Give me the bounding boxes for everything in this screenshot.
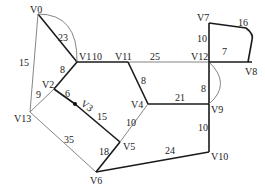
edge-weight: 8: [141, 75, 146, 86]
edge-V7-V8: [209, 23, 252, 62]
edge-weight: 10: [197, 33, 207, 44]
vertex-label-v11: V11: [115, 51, 132, 62]
edge-weight: 16: [238, 17, 248, 28]
edge-V3-V5: [75, 104, 120, 142]
edge-weight: 10: [92, 51, 102, 62]
edge-V1-V2: [54, 62, 77, 89]
edge-weight: 24: [165, 145, 175, 156]
edge-V13-V6: [30, 112, 96, 172]
edge-weight: 23: [58, 32, 68, 43]
edge-weight: 18: [99, 146, 109, 157]
edge-weight: 7: [222, 46, 227, 57]
edge-V6-V10: [96, 152, 209, 172]
vertex-label-v2: V2: [42, 79, 54, 90]
edge-weight: 10: [198, 122, 208, 133]
edge-V2-V13: [30, 89, 54, 112]
vertex-label-v5: V5: [123, 141, 135, 152]
vertex-label-v9: V9: [211, 104, 223, 115]
graph-diagram: 23158961535181025810218107161024 V0V1V2V…: [0, 0, 265, 194]
edge-weight: 6: [65, 88, 70, 99]
edge-weight: 15: [97, 111, 107, 122]
vertices-layer: V0V1V2V3V13V4V5V6V11V12V7V8V9V10: [14, 4, 257, 186]
vertex-label-v7: V7: [197, 12, 209, 23]
vertex-label-v8: V8: [245, 66, 257, 77]
vertex-label-v10: V10: [211, 151, 228, 162]
vertex-label-v1: V1: [79, 51, 91, 62]
vertex-label-v4: V4: [131, 99, 143, 110]
edge-weight: 15: [19, 57, 29, 68]
vertex-label-v3: V3: [79, 98, 95, 114]
edge-weight: 9: [36, 89, 41, 100]
vertex-dot: [73, 102, 77, 106]
edge-weight: 25: [150, 51, 160, 62]
edge-weight: 8: [201, 83, 206, 94]
edge-weight: 10: [126, 117, 136, 128]
vertex-label-v12: V12: [191, 51, 208, 62]
edge-weight: 21: [175, 92, 185, 103]
vertex-label-v0: V0: [30, 4, 42, 15]
vertex-label-v6: V6: [90, 175, 102, 186]
edge-V12-V9: [209, 62, 221, 104]
edge-weight: 8: [60, 64, 65, 75]
edge-weight: 35: [64, 134, 74, 145]
vertex-label-v13: V13: [14, 113, 31, 124]
